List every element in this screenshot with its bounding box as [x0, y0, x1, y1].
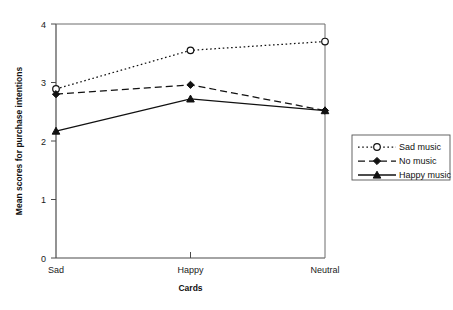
series-happy-music — [52, 95, 329, 134]
y-tick-label-2: 2 — [41, 137, 46, 147]
legend-marker — [374, 144, 381, 151]
data-series-layer — [52, 38, 329, 134]
data-point-happy — [187, 81, 194, 88]
plot-frame — [56, 24, 325, 258]
y-tick-label-1: 1 — [41, 195, 46, 205]
data-point-neutral — [322, 38, 329, 45]
data-point-happy — [187, 47, 194, 54]
legend: Sad musicNo musicHappy music — [352, 135, 452, 180]
legend-label: Sad music — [399, 142, 442, 152]
legend-label: No music — [399, 156, 437, 166]
legend-label: Happy music — [399, 170, 452, 180]
figure-container: 0 1 2 3 4 Sad Happy Neutral Cards Mean s… — [0, 0, 453, 310]
y-axis-title: Mean scores for purchase intentions — [14, 67, 24, 216]
x-axis-title: Cards — [178, 283, 202, 293]
y-tick-label-0: 0 — [41, 254, 46, 264]
x-axis-ticks: Sad Happy Neutral — [48, 252, 340, 275]
x-tick-label-happy: Happy — [177, 265, 204, 275]
x-tick-label-neutral: Neutral — [310, 265, 339, 275]
y-tick-label-3: 3 — [41, 78, 46, 88]
y-tick-label-4: 4 — [41, 20, 46, 30]
line-chart: 0 1 2 3 4 Sad Happy Neutral Cards Mean s… — [0, 0, 453, 310]
y-axis-ticks: 0 1 2 3 4 — [41, 20, 56, 264]
series-line — [56, 99, 325, 131]
x-tick-label-sad: Sad — [48, 265, 64, 275]
